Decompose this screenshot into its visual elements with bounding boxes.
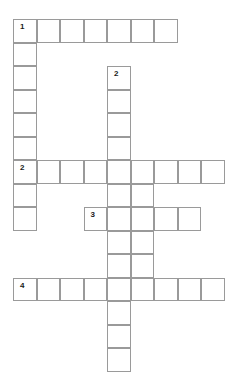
grid-cell[interactable] xyxy=(13,66,37,90)
grid-cell[interactable] xyxy=(37,19,61,43)
grid-cell[interactable] xyxy=(60,19,84,43)
grid-cell[interactable] xyxy=(131,231,155,255)
grid-cell[interactable] xyxy=(13,207,37,231)
grid-cell[interactable] xyxy=(201,160,225,184)
grid-cell[interactable] xyxy=(154,160,178,184)
grid-cell[interactable] xyxy=(107,278,131,302)
grid-cell[interactable] xyxy=(37,160,61,184)
grid-cell[interactable] xyxy=(107,301,131,325)
grid-cell[interactable] xyxy=(107,231,131,255)
grid-cell[interactable] xyxy=(107,348,131,372)
grid-cell[interactable] xyxy=(178,160,202,184)
grid-cell[interactable] xyxy=(13,137,37,161)
grid-cell[interactable] xyxy=(201,278,225,302)
grid-cell[interactable] xyxy=(131,254,155,278)
grid-cell[interactable] xyxy=(107,66,131,90)
grid-cell[interactable] xyxy=(37,278,61,302)
grid-cell[interactable] xyxy=(84,278,108,302)
grid-cell[interactable] xyxy=(84,160,108,184)
grid-cell[interactable] xyxy=(154,207,178,231)
grid-cell[interactable] xyxy=(13,113,37,137)
grid-cell[interactable] xyxy=(107,325,131,349)
crossword-grid[interactable]: 12234 xyxy=(0,0,237,373)
grid-cell[interactable] xyxy=(107,254,131,278)
grid-cell[interactable] xyxy=(60,160,84,184)
grid-cell[interactable] xyxy=(131,19,155,43)
grid-cell[interactable] xyxy=(107,160,131,184)
grid-cell[interactable] xyxy=(84,207,108,231)
grid-cell[interactable] xyxy=(107,113,131,137)
grid-cell[interactable] xyxy=(131,160,155,184)
grid-cell[interactable] xyxy=(84,19,108,43)
grid-cell[interactable] xyxy=(154,278,178,302)
grid-cell[interactable] xyxy=(13,278,37,302)
grid-cell[interactable] xyxy=(178,207,202,231)
grid-cell[interactable] xyxy=(178,278,202,302)
grid-cell[interactable] xyxy=(131,207,155,231)
grid-cell[interactable] xyxy=(13,43,37,67)
grid-cell[interactable] xyxy=(131,184,155,208)
grid-cell[interactable] xyxy=(107,207,131,231)
grid-cell[interactable] xyxy=(107,184,131,208)
crossword-puzzle: 12234 xyxy=(0,0,237,373)
grid-cell[interactable] xyxy=(13,160,37,184)
grid-cell[interactable] xyxy=(13,184,37,208)
grid-cell[interactable] xyxy=(107,137,131,161)
grid-cell[interactable] xyxy=(107,19,131,43)
grid-cell[interactable] xyxy=(13,19,37,43)
grid-cell[interactable] xyxy=(13,90,37,114)
grid-cell[interactable] xyxy=(60,278,84,302)
grid-cell[interactable] xyxy=(107,90,131,114)
grid-cell[interactable] xyxy=(154,19,178,43)
grid-cell[interactable] xyxy=(131,278,155,302)
